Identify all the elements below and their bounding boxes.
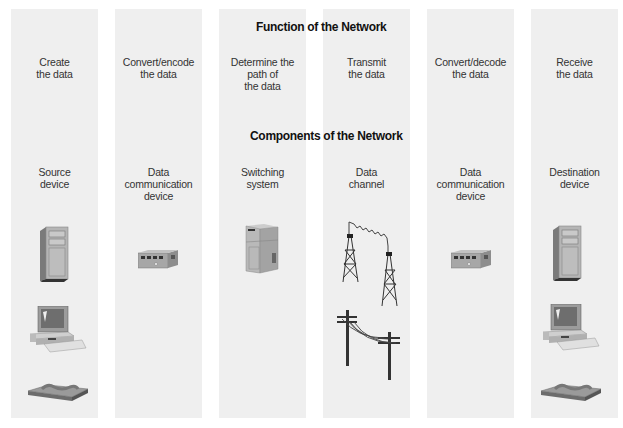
- component-label: Data channel: [323, 166, 410, 190]
- function-heading: Function of the Network: [256, 20, 386, 34]
- function-label: Convert/encode the data: [115, 56, 202, 80]
- function-label: Convert/decode the data: [427, 56, 514, 80]
- telephone-icon: [541, 381, 601, 403]
- column-receive: Receive the data Destination device: [531, 9, 618, 418]
- function-label: Determine the path of the data: [219, 56, 306, 92]
- column-encode: Convert/encode the data Data communicati…: [115, 9, 202, 418]
- component-label: Destination device: [531, 166, 618, 190]
- server-tower-icon: [549, 224, 585, 282]
- function-label: Create the data: [11, 56, 98, 80]
- column-path: Determine the path of the data Switching…: [219, 9, 306, 418]
- server-tower-icon: [36, 225, 72, 283]
- microwave-towers-icon: [340, 220, 400, 310]
- desktop-computer-icon: [541, 304, 601, 352]
- switching-cabinet-icon: [244, 223, 280, 275]
- function-label: Transmit the data: [323, 56, 410, 80]
- components-heading: Components of the Network: [250, 129, 403, 143]
- function-label: Receive the data: [531, 56, 618, 80]
- modem-icon: [451, 247, 493, 269]
- component-label: Source device: [11, 166, 98, 190]
- component-label: Data communication device: [427, 166, 514, 202]
- column-decode: Convert/decode the data Data communicati…: [427, 9, 514, 418]
- column-create: Create the data Source device: [11, 9, 98, 418]
- desktop-computer-icon: [28, 306, 88, 354]
- component-label: Data communication device: [115, 166, 202, 202]
- telephone-poles-icon: [336, 310, 406, 382]
- modem-icon: [138, 247, 180, 269]
- telephone-icon: [28, 381, 88, 403]
- component-label: Switching system: [219, 166, 306, 190]
